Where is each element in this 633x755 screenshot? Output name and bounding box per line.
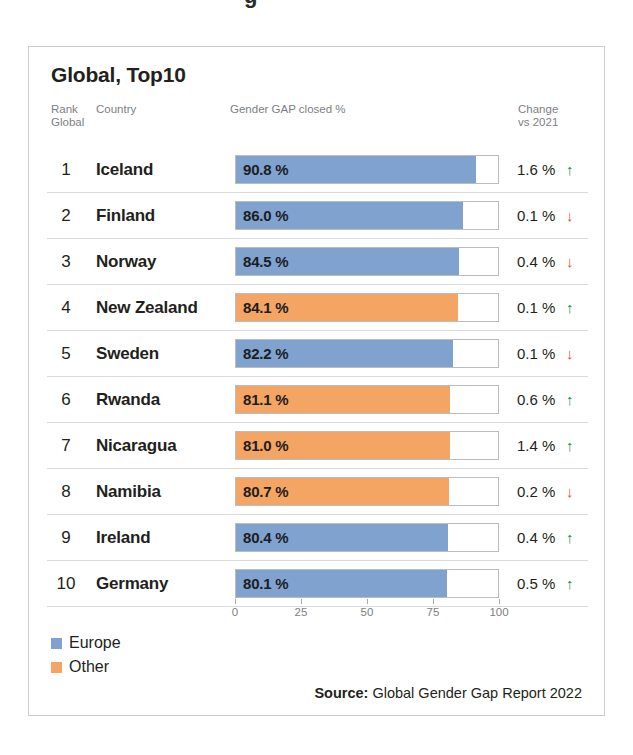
rank-value: 7 bbox=[51, 423, 81, 468]
axis-tick-label: 25 bbox=[295, 606, 308, 618]
arrow-down-icon: ↓ bbox=[566, 254, 574, 269]
table-row: 2Finland86.0 %0.1 %↓ bbox=[47, 193, 588, 239]
arrow-up-icon: ↑ bbox=[566, 530, 574, 545]
change-value: 0.4 % bbox=[517, 529, 561, 546]
country-name: Iceland bbox=[96, 147, 153, 192]
source-text: Global Gender Gap Report 2022 bbox=[372, 685, 582, 701]
arrow-up-icon: ↑ bbox=[566, 392, 574, 407]
bar-value-label: 84.5 % bbox=[243, 248, 289, 275]
table-row: 6Rwanda81.1 %0.6 %↑ bbox=[47, 377, 588, 423]
bar-value-label: 86.0 % bbox=[243, 202, 289, 229]
column-header-gender-gap: Gender GAP closed % bbox=[230, 103, 346, 116]
bar-track: 84.5 % bbox=[235, 247, 499, 276]
arrow-down-icon: ↓ bbox=[566, 484, 574, 499]
change-cell: 0.1 %↓ bbox=[517, 193, 605, 238]
country-name: Norway bbox=[96, 239, 156, 284]
bar-value-label: 90.8 % bbox=[243, 156, 289, 183]
change-cell: 0.4 %↑ bbox=[517, 515, 605, 560]
axis-tick bbox=[499, 599, 500, 604]
arrow-up-icon: ↑ bbox=[566, 576, 574, 591]
table-row: 1Iceland90.8 %1.6 %↑ bbox=[47, 147, 588, 193]
legend-label: Other bbox=[69, 658, 109, 676]
bar-value-label: 84.1 % bbox=[243, 294, 289, 321]
x-axis: 0255075100 bbox=[47, 599, 588, 629]
rank-value: 9 bbox=[51, 515, 81, 560]
legend-item-europe: Europe bbox=[51, 631, 121, 655]
change-value: 0.2 % bbox=[517, 483, 561, 500]
rank-value: 2 bbox=[51, 193, 81, 238]
country-name: New Zealand bbox=[96, 285, 198, 330]
arrow-up-icon: ↑ bbox=[566, 438, 574, 453]
axis-tick bbox=[367, 599, 368, 604]
country-name: Sweden bbox=[96, 331, 159, 376]
bar-track: 90.8 % bbox=[235, 155, 499, 184]
bar-value-label: 80.1 % bbox=[243, 570, 289, 597]
change-cell: 0.4 %↓ bbox=[517, 239, 605, 284]
bar-value-label: 80.4 % bbox=[243, 524, 289, 551]
bar-value-label: 82.2 % bbox=[243, 340, 289, 367]
change-value: 0.1 % bbox=[517, 299, 561, 316]
table-row: 5Sweden82.2 %0.1 %↓ bbox=[47, 331, 588, 377]
bar-track: 80.1 % bbox=[235, 569, 499, 598]
arrow-down-icon: ↓ bbox=[566, 208, 574, 223]
change-cell: 0.1 %↑ bbox=[517, 285, 605, 330]
cropped-headline-above: gg g bbox=[0, 0, 633, 14]
column-header-country: Country bbox=[96, 103, 136, 116]
rank-value: 6 bbox=[51, 377, 81, 422]
bar-track: 86.0 % bbox=[235, 201, 499, 230]
bar-value-label: 81.0 % bbox=[243, 432, 289, 459]
country-name: Rwanda bbox=[96, 377, 160, 422]
axis-tick bbox=[235, 599, 236, 604]
bar-track: 82.2 % bbox=[235, 339, 499, 368]
change-value: 0.1 % bbox=[517, 207, 561, 224]
change-cell: 0.6 %↑ bbox=[517, 377, 605, 422]
arrow-up-icon: ↑ bbox=[566, 300, 574, 315]
change-value: 0.1 % bbox=[517, 345, 561, 362]
arrow-down-icon: ↓ bbox=[566, 346, 574, 361]
country-name: Finland bbox=[96, 193, 155, 238]
change-cell: 1.6 %↑ bbox=[517, 147, 605, 192]
change-cell: 0.1 %↓ bbox=[517, 331, 605, 376]
change-value: 0.6 % bbox=[517, 391, 561, 408]
column-header-rank: Rank Global bbox=[51, 103, 84, 129]
table-row: 3Norway84.5 %0.4 %↓ bbox=[47, 239, 588, 285]
change-value: 1.4 % bbox=[517, 437, 561, 454]
axis-tick-label: 100 bbox=[489, 606, 508, 618]
rank-value: 8 bbox=[51, 469, 81, 514]
chart-card: Global, Top10 Rank Global Country Gender… bbox=[28, 46, 605, 716]
legend-item-other: Other bbox=[51, 655, 121, 679]
country-name: Namibia bbox=[96, 469, 161, 514]
bar-track: 80.4 % bbox=[235, 523, 499, 552]
page-title: Global, Top10 bbox=[51, 63, 186, 87]
ranking-table: 1Iceland90.8 %1.6 %↑2Finland86.0 %0.1 %↓… bbox=[29, 147, 606, 607]
axis-tick bbox=[433, 599, 434, 604]
column-header-change: Change vs 2021 bbox=[518, 103, 558, 129]
bar-track: 81.0 % bbox=[235, 431, 499, 460]
rank-value: 5 bbox=[51, 331, 81, 376]
legend-swatch-icon bbox=[51, 638, 62, 649]
table-row: 7Nicaragua81.0 %1.4 %↑ bbox=[47, 423, 588, 469]
legend-swatch-icon bbox=[51, 662, 62, 673]
table-row: 4New Zealand84.1 %0.1 %↑ bbox=[47, 285, 588, 331]
rank-value: 4 bbox=[51, 285, 81, 330]
source-note: Source: Global Gender Gap Report 2022 bbox=[314, 685, 582, 701]
axis-tick bbox=[301, 599, 302, 604]
bar-value-label: 81.1 % bbox=[243, 386, 289, 413]
bar-track: 81.1 % bbox=[235, 385, 499, 414]
bar-value-label: 80.7 % bbox=[243, 478, 289, 505]
rank-value: 1 bbox=[51, 147, 81, 192]
legend-label: Europe bbox=[69, 634, 121, 652]
change-cell: 0.2 %↓ bbox=[517, 469, 605, 514]
axis-tick-label: 0 bbox=[232, 606, 238, 618]
source-label: Source: bbox=[314, 685, 368, 701]
country-name: Nicaragua bbox=[96, 423, 176, 468]
change-value: 0.4 % bbox=[517, 253, 561, 270]
axis-tick-label: 50 bbox=[361, 606, 374, 618]
legend: EuropeOther bbox=[51, 631, 121, 679]
table-row: 8Namibia80.7 %0.2 %↓ bbox=[47, 469, 588, 515]
change-value: 1.6 % bbox=[517, 161, 561, 178]
bar-track: 80.7 % bbox=[235, 477, 499, 506]
axis-tick-label: 75 bbox=[427, 606, 440, 618]
table-row: 9Ireland80.4 %0.4 %↑ bbox=[47, 515, 588, 561]
country-name: Ireland bbox=[96, 515, 150, 560]
